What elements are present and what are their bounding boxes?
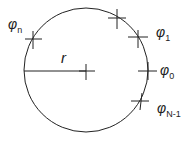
center-cross xyxy=(79,64,95,80)
label-phi-0: φ0 xyxy=(160,63,174,81)
cross-phi-n xyxy=(25,31,42,49)
label-radius: r xyxy=(61,50,66,65)
cross-phi-1 xyxy=(128,30,148,48)
label-phi-n: φn xyxy=(8,17,22,35)
cross-phi-0 xyxy=(138,62,157,80)
label-phi-N-1: φN-1 xyxy=(157,101,181,119)
cross-top xyxy=(108,9,126,29)
label-phi-1: φ1 xyxy=(156,25,170,43)
cross-phi-N-1 xyxy=(131,93,149,110)
